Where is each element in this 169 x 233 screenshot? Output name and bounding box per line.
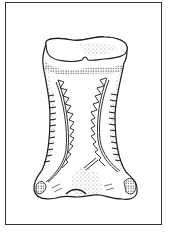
bone-artifact-drawing [0,0,169,233]
